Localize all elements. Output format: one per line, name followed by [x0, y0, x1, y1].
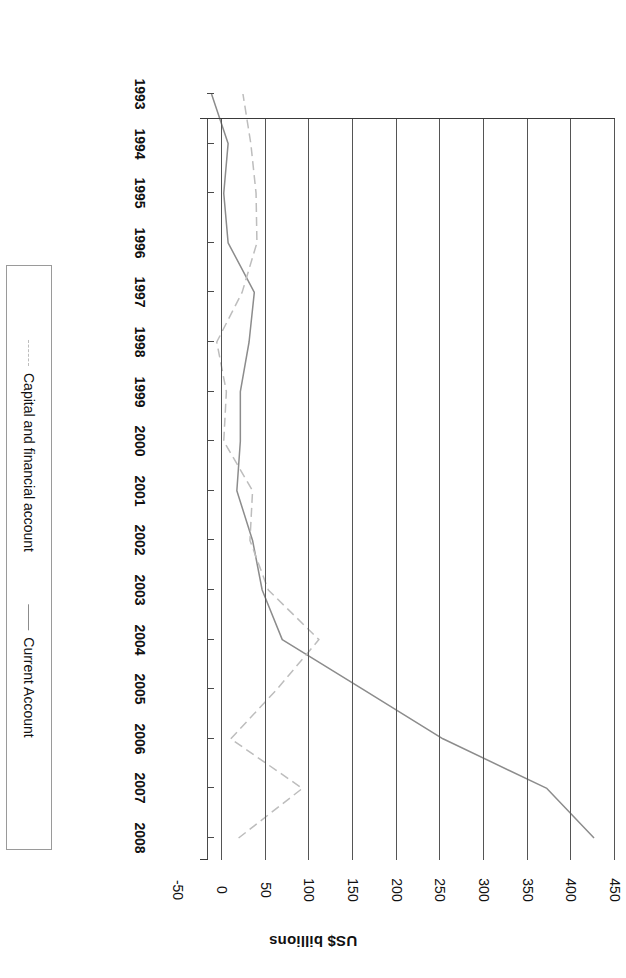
value-gridline: [265, 118, 266, 860]
value-gridline: [221, 118, 222, 860]
value-axis-title: US$ billions: [0, 933, 626, 950]
legend-label: Capital and financial account: [21, 373, 37, 552]
legend-item[interactable]: Current Account: [21, 604, 37, 737]
value-gridline: [570, 118, 571, 860]
value-gridline: [396, 118, 397, 860]
line-chart-figure: US$ billions -50050100150200250300350400…: [0, 0, 626, 978]
category-label: 2003: [132, 574, 148, 605]
category-label: 2008: [132, 822, 148, 853]
value-tick-label: 100: [301, 878, 317, 901]
legend-label: Current Account: [21, 637, 37, 737]
chart-legend: Current AccountCapital and financial acc…: [6, 265, 52, 850]
category-label: 2007: [132, 773, 148, 804]
category-tick: [207, 837, 214, 838]
value-gridline: [308, 118, 309, 860]
solid-line-icon: [29, 604, 30, 630]
value-gridline: [614, 118, 615, 860]
category-tick: [207, 539, 214, 540]
legend-items: Current AccountCapital and financial acc…: [7, 266, 51, 849]
category-label: 1997: [132, 277, 148, 308]
category-tick: [207, 787, 214, 788]
axis-end-cap: [200, 859, 208, 860]
category-tick: [207, 490, 214, 491]
category-label: 2005: [132, 674, 148, 705]
category-tick: [207, 391, 214, 392]
category-tick: [207, 242, 214, 243]
category-label: 1996: [132, 227, 148, 258]
category-label: 2006: [132, 723, 148, 754]
plot-area: [217, 118, 615, 860]
category-tick: [207, 639, 214, 640]
category-label: 1999: [132, 376, 148, 407]
category-tick: [207, 440, 214, 441]
dashed-line-icon: [29, 340, 30, 366]
category-label: 2002: [132, 525, 148, 556]
category-tick: [207, 143, 214, 144]
value-tick-label: 250: [432, 878, 448, 901]
category-label: 2000: [132, 426, 148, 457]
value-gridline: [439, 118, 440, 860]
value-tick-label: 450: [607, 878, 623, 901]
value-tick-label: -50: [170, 880, 186, 900]
category-label: 1993: [132, 78, 148, 109]
value-tick-label: 50: [258, 882, 274, 898]
value-gridline: [483, 118, 484, 860]
category-label: 1995: [132, 178, 148, 209]
category-tick: [207, 93, 214, 94]
category-label: 2004: [132, 624, 148, 655]
value-tick-label: 400: [563, 878, 579, 901]
category-label: 1994: [132, 128, 148, 159]
value-tick-label: 200: [389, 878, 405, 901]
series-line: [217, 94, 319, 838]
value-gridline: [527, 118, 528, 860]
rotated-figure-container: US$ billions -50050100150200250300350400…: [0, 0, 626, 978]
category-label: 1998: [132, 326, 148, 357]
category-tick: [207, 192, 214, 193]
series-layer: [217, 118, 615, 860]
category-label: 2001: [132, 475, 148, 506]
value-tick-label: 0: [214, 886, 230, 894]
category-tick: [207, 688, 214, 689]
category-axis-labels: 2008200720062005200420032002200120001999…: [76, 118, 196, 860]
series-line: [212, 94, 595, 838]
value-gridline: [352, 118, 353, 860]
value-axis-line: [207, 118, 615, 119]
category-tick: [207, 341, 214, 342]
value-tick-label: 350: [520, 878, 536, 901]
category-tick: [207, 738, 214, 739]
value-tick-label: 150: [345, 878, 361, 901]
category-tick: [207, 589, 214, 590]
value-tick-label: 300: [476, 878, 492, 901]
legend-item[interactable]: Capital and financial account: [21, 340, 37, 552]
value-axis-tick-labels: -50050100150200250300350400450: [0, 860, 626, 906]
category-tick: [207, 291, 214, 292]
